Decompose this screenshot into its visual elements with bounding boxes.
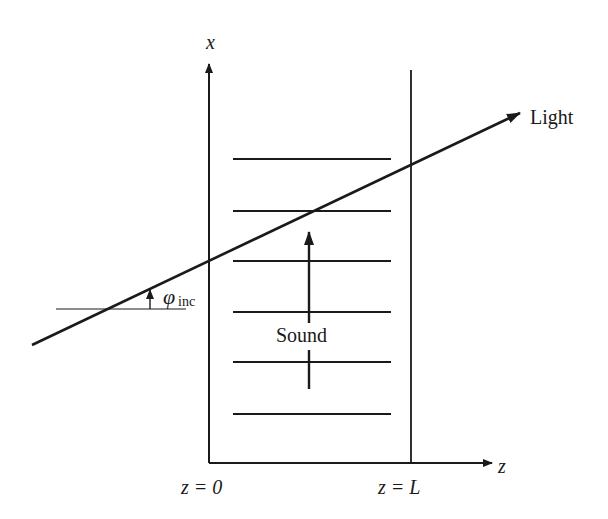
light-ray-arrow bbox=[32, 113, 520, 345]
z-L-label: z = L bbox=[377, 476, 420, 498]
diagram-canvas: x z z = 0 z = L Light Sound φ inc bbox=[0, 0, 608, 519]
x-axis-label: x bbox=[205, 31, 215, 53]
phi-symbol: φ bbox=[163, 284, 175, 309]
z-axis-label: z bbox=[497, 455, 506, 477]
z-zero-label: z = 0 bbox=[180, 476, 222, 498]
sound-label: Sound bbox=[276, 324, 327, 346]
sound-wavefronts bbox=[233, 159, 391, 414]
light-label: Light bbox=[530, 106, 574, 129]
phi-subscript: inc bbox=[178, 294, 195, 309]
